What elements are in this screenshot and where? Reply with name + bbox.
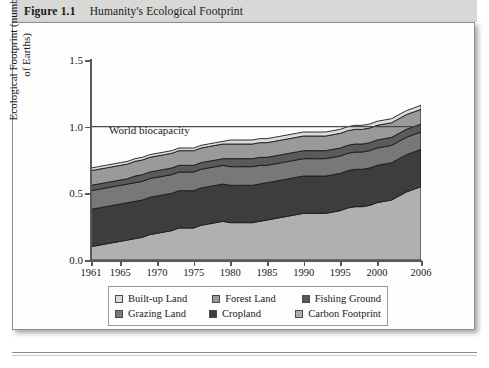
- x-tick-label: 2000: [367, 267, 388, 278]
- y-tick-mark: [85, 193, 90, 195]
- legend-swatch-grazing-land: [115, 310, 123, 318]
- x-tick-label: 1961: [81, 267, 102, 278]
- legend-item-built-up-land[interactable]: Built-up Land: [115, 293, 212, 304]
- x-tick-label: 2006: [411, 267, 432, 278]
- x-tick-mark: [421, 261, 423, 266]
- figure-title-band: Figure 1.1 Humanity's Ecological Footpri…: [12, 0, 477, 22]
- x-tick-mark: [304, 261, 306, 266]
- legend-swatch-built-up-land: [115, 295, 123, 303]
- page-rule-bottom: [12, 355, 477, 356]
- legend-item-cropland[interactable]: Cropland: [209, 308, 295, 319]
- y-axis-title-line1: Ecological Footprint (number: [7, 0, 19, 120]
- figure-container: Figure 1.1 Humanity's Ecological Footpri…: [0, 0, 489, 368]
- legend-row-2: Grazing Land Cropland Carbon Footprint: [115, 306, 381, 321]
- figure-title: Humanity's Ecological Footprint: [76, 5, 243, 17]
- y-tick-mark: [85, 260, 90, 262]
- y-tick-label: 0.0: [57, 254, 83, 266]
- x-tick-mark: [120, 261, 122, 266]
- x-tick-mark: [340, 261, 342, 266]
- x-tick-mark: [267, 261, 269, 266]
- x-axis-line: [90, 260, 422, 262]
- world-biocapacity-label: World biocapacity: [109, 124, 190, 136]
- stacked-area-chart: [91, 60, 421, 260]
- x-tick-mark: [91, 261, 93, 266]
- y-axis-title-line2: of Earths): [20, 33, 32, 77]
- legend-label-grazing-land: Grazing Land: [128, 308, 186, 319]
- legend-label-fishing-ground: Fishing Ground: [315, 293, 381, 304]
- legend-row-1: Built-up Land Forest Land Fishing Ground: [115, 291, 381, 306]
- legend-swatch-fishing-ground: [302, 295, 310, 303]
- y-tick-label: 0.5: [57, 187, 83, 199]
- y-tick-label: 1.0: [57, 121, 83, 133]
- legend-label-cropland: Cropland: [222, 308, 261, 319]
- legend-label-forest-land: Forest Land: [225, 293, 275, 304]
- x-tick-label: 1975: [183, 267, 204, 278]
- x-tick-mark: [194, 261, 196, 266]
- legend-label-built-up-land: Built-up Land: [128, 293, 187, 304]
- y-tick-mark: [85, 60, 90, 62]
- y-axis-title: Ecological Footprint (number of Earths): [7, 0, 34, 160]
- x-tick-label: 1970: [147, 267, 168, 278]
- legend-item-carbon-footprint[interactable]: Carbon Footprint: [295, 308, 381, 319]
- x-tick-label: 1995: [330, 267, 351, 278]
- legend-item-fishing-ground[interactable]: Fishing Ground: [302, 293, 381, 304]
- page-rule-top: [12, 352, 477, 353]
- y-axis-line: [90, 59, 92, 261]
- x-tick-label: 1990: [293, 267, 314, 278]
- legend-swatch-carbon-footprint: [295, 310, 303, 318]
- x-tick-label: 1980: [220, 267, 241, 278]
- legend-swatch-forest-land: [212, 295, 220, 303]
- x-tick-label: 1985: [257, 267, 278, 278]
- x-tick-mark: [230, 261, 232, 266]
- chart-legend: Built-up Land Forest Land Fishing Ground…: [108, 286, 388, 326]
- y-tick-mark: [85, 127, 90, 129]
- x-tick-mark: [157, 261, 159, 266]
- x-tick-mark: [377, 261, 379, 266]
- legend-item-grazing-land[interactable]: Grazing Land: [115, 308, 209, 319]
- legend-item-forest-land[interactable]: Forest Land: [212, 293, 302, 304]
- legend-label-carbon-footprint: Carbon Footprint: [308, 308, 381, 319]
- plot-wrapper: Ecological Footprint (number of Earths) …: [13, 23, 476, 331]
- figure-panel: Ecological Footprint (number of Earths) …: [12, 22, 475, 330]
- legend-swatch-cropland: [209, 310, 217, 318]
- x-tick-label: 1965: [110, 267, 131, 278]
- y-tick-label: 1.5: [57, 54, 83, 66]
